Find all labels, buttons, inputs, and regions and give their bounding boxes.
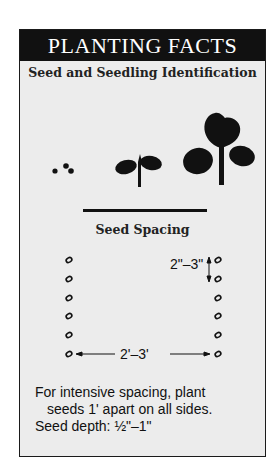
small-seedling-icon [114, 154, 163, 187]
section-divider [83, 209, 207, 212]
note-line-2: seeds 1' apart on all sides. [47, 401, 212, 418]
vertical-spacing-label: 2"–3" [170, 256, 203, 272]
card-title: PLANTING FACTS [20, 30, 265, 61]
seeds-icon [52, 163, 73, 174]
seedling-illustrations [20, 110, 265, 205]
note-line-3: Seed depth: ½"–1" [35, 418, 152, 435]
large-seedling-icon [180, 113, 257, 185]
seed-identification-heading: Seed and Seedling Identification [20, 65, 265, 80]
planting-facts-card: PLANTING FACTS Seed and Seedling Identif… [19, 29, 266, 457]
horizontal-spacing-label: 2'–3' [120, 346, 149, 362]
seed-spacing-heading: Seed Spacing [20, 222, 265, 237]
note-line-1: For intensive spacing, plant [35, 384, 205, 401]
